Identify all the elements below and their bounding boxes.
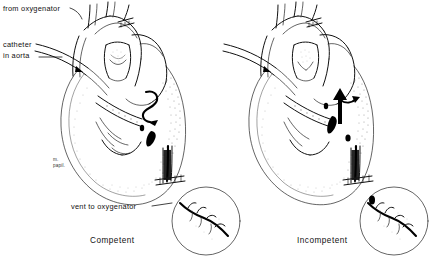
label-catheter-line2: in aorta <box>3 51 30 60</box>
label-from-oxygenator: from oxygenator <box>3 4 60 13</box>
caption-competent: Competent <box>90 236 135 245</box>
label-vent-to-oxygenator: vent to oxygenator <box>71 202 137 211</box>
label-papillary-line1: m. <box>53 157 59 162</box>
figure-background <box>0 0 430 261</box>
label-papillary-line2: papil. <box>53 163 65 168</box>
label-catheter-line1: catheter <box>3 40 32 49</box>
illustration-canvas: from oxygenator catheter in aorta m. pap… <box>0 0 430 261</box>
caption-incompetent: Incompetent <box>297 236 348 245</box>
medical-illustration-figure: from oxygenator catheter in aorta m. pap… <box>0 0 430 261</box>
